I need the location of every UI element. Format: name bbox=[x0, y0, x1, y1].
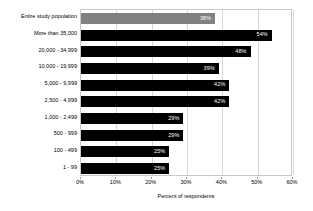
bar-value-label: 29% bbox=[168, 116, 183, 122]
bar: 48% bbox=[81, 46, 251, 57]
bar-value-label: 38% bbox=[200, 16, 215, 22]
bar-row: 29% bbox=[81, 113, 291, 124]
bar: 25% bbox=[81, 163, 169, 174]
bar: 38% bbox=[81, 13, 215, 24]
x-tick-label: 0% bbox=[76, 180, 84, 186]
category-label: 10,000 - 19,999 bbox=[0, 64, 77, 70]
bar-value-label: 42% bbox=[214, 99, 229, 105]
gridline bbox=[293, 10, 294, 175]
x-tick-label: 40% bbox=[216, 180, 227, 186]
bar-row: 38% bbox=[81, 13, 291, 24]
plot-area: 38%54%48%39%42%42%29%29%25%25% bbox=[80, 9, 292, 176]
bar-value-label: 54% bbox=[256, 32, 271, 38]
category-label: 20,000 - 34,999 bbox=[0, 48, 77, 54]
bar-chart-figure: Entire study populationMore than 35,0002… bbox=[0, 0, 313, 211]
category-label: 2,500 - 4,999 bbox=[0, 98, 77, 104]
bar: 25% bbox=[81, 146, 169, 157]
bar: 42% bbox=[81, 80, 229, 91]
bar-row: 29% bbox=[81, 130, 291, 141]
bar-row: 42% bbox=[81, 80, 291, 91]
bar-row: 48% bbox=[81, 46, 291, 57]
bar-value-label: 29% bbox=[168, 133, 183, 139]
bar-value-label: 42% bbox=[214, 82, 229, 88]
category-label: 5,000 - 9,999 bbox=[0, 81, 77, 87]
bar: 29% bbox=[81, 113, 183, 124]
x-tick-label: 10% bbox=[110, 180, 121, 186]
category-label: Entire study population bbox=[0, 14, 77, 20]
x-tick-label: 20% bbox=[145, 180, 156, 186]
x-tick-label: 60% bbox=[286, 180, 297, 186]
category-axis-labels: Entire study populationMore than 35,0002… bbox=[0, 9, 77, 176]
bar-value-label: 48% bbox=[235, 49, 250, 55]
bar: 39% bbox=[81, 63, 219, 74]
bar: 42% bbox=[81, 96, 229, 107]
x-axis: 0%10%20%30%40%50%60% bbox=[80, 177, 292, 187]
x-tick-label: 50% bbox=[251, 180, 262, 186]
category-label: 500 - 999 bbox=[0, 131, 77, 137]
bar-value-label: 25% bbox=[154, 166, 169, 172]
bar-row: 54% bbox=[81, 30, 291, 41]
bar-series: 38%54%48%39%42%42%29%29%25%25% bbox=[81, 10, 291, 175]
bar-row: 42% bbox=[81, 96, 291, 107]
bar-row: 25% bbox=[81, 146, 291, 157]
bar-value-label: 39% bbox=[203, 66, 218, 72]
bar-row: 39% bbox=[81, 63, 291, 74]
category-label: More than 35,000 bbox=[0, 31, 77, 37]
category-label: 1 - 99 bbox=[0, 165, 77, 171]
x-axis-title: Percent of respondents bbox=[80, 194, 292, 200]
bar: 54% bbox=[81, 30, 272, 41]
bar-value-label: 25% bbox=[154, 149, 169, 155]
bar: 29% bbox=[81, 130, 183, 141]
category-label: 1,000 - 2,499 bbox=[0, 115, 77, 121]
bar-row: 25% bbox=[81, 163, 291, 174]
category-label: 100 - 499 bbox=[0, 148, 77, 154]
x-tick-label: 30% bbox=[180, 180, 191, 186]
